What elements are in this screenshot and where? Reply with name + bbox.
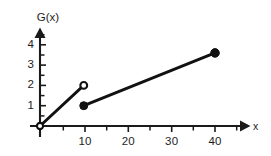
x-tick-label-10: 10 <box>78 136 91 148</box>
chart-figure: G(x) x 4 3 2 1 10 20 30 40 <box>0 0 271 156</box>
y-tick-label-2: 2 <box>27 80 34 92</box>
x-tick-label-40: 40 <box>208 136 221 148</box>
x-axis-label: x <box>253 121 258 132</box>
data-segment-2 <box>84 53 215 106</box>
y-tick-label-1: 1 <box>27 100 34 112</box>
origin-open-point-marker <box>37 123 43 129</box>
y-axis-label: G(x) <box>37 12 59 24</box>
y-tick-label-4: 4 <box>27 39 34 51</box>
y-tick-label-3: 3 <box>27 59 34 71</box>
data-segment-1 <box>40 85 84 126</box>
right-closed-point-marker <box>211 49 220 58</box>
x-tick-label-20: 20 <box>122 136 135 148</box>
y-axis-arrow-icon <box>35 28 46 39</box>
discontinuity-upper-open-point-marker <box>80 82 87 89</box>
x-axis-arrow-icon <box>240 121 251 132</box>
discontinuity-lower-closed-point-marker <box>80 102 88 110</box>
x-tick-label-30: 30 <box>165 136 178 148</box>
